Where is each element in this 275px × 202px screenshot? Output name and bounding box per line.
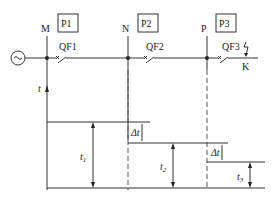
fault-point-label: K [242,61,250,72]
p3-label: P3 [219,18,230,29]
qf1-switch [58,57,66,63]
t3-label: t3 [237,171,244,184]
t2-label: t2 [160,161,167,174]
qf3-x-mark [218,56,221,59]
node-n-label: N [122,23,129,34]
node-m-label: M [41,23,50,34]
qf2-switch [146,57,154,63]
t-axis-arrow [45,85,49,92]
p1-label: P1 [61,18,72,29]
t-axis-label: t [38,83,41,94]
delta-t-1-label: Δt [130,127,140,138]
fault-arrow [244,53,248,57]
delta-t-2-label: Δt [210,147,220,158]
qf1-x-mark [56,56,59,59]
t1-label: t1 [80,151,86,164]
node-p-label: P [201,23,207,34]
qf3-label: QF3 [222,41,240,52]
sine-glyph [14,57,22,60]
qf3-switch [220,57,228,63]
qf1-label: QF1 [59,41,77,52]
p2-label: P2 [141,18,152,29]
qf2-label: QF2 [146,41,164,52]
qf2-x-mark [144,56,147,59]
protection-coordination-diagram: M P1 QF1 N P2 QF2 P P3 QF3 K t t1 Δt t2 [0,0,275,202]
